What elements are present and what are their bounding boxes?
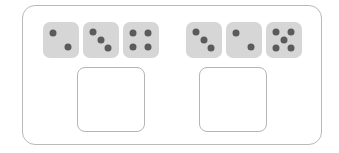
pip-icon bbox=[130, 44, 137, 51]
pip-icon bbox=[130, 29, 137, 36]
pip-icon bbox=[144, 29, 151, 36]
pip-icon bbox=[233, 29, 240, 36]
pip-icon bbox=[208, 45, 215, 52]
die-6 bbox=[266, 22, 302, 58]
pip-icon bbox=[89, 28, 96, 35]
worksheet bbox=[0, 0, 339, 153]
die-4 bbox=[186, 22, 222, 58]
pip-icon bbox=[50, 29, 57, 36]
die-1 bbox=[43, 22, 79, 58]
dice-row bbox=[23, 20, 321, 60]
die-5 bbox=[226, 22, 262, 58]
dice-group-2 bbox=[186, 22, 302, 58]
pip-icon bbox=[288, 29, 295, 36]
pip-icon bbox=[272, 29, 279, 36]
pip-icon bbox=[105, 45, 112, 52]
pip-icon bbox=[64, 44, 71, 51]
die-3 bbox=[123, 22, 159, 58]
pip-icon bbox=[200, 37, 207, 44]
pip-icon bbox=[272, 44, 279, 51]
pip-icon bbox=[144, 44, 151, 51]
worksheet-panel bbox=[22, 5, 322, 145]
answer-box-2[interactable] bbox=[199, 67, 267, 132]
answer-box-1[interactable] bbox=[77, 67, 145, 132]
pip-icon bbox=[288, 44, 295, 51]
pip-icon bbox=[247, 44, 254, 51]
answer-row bbox=[23, 67, 321, 135]
pip-icon bbox=[192, 28, 199, 35]
pip-icon bbox=[280, 37, 287, 44]
dice-group-1 bbox=[43, 22, 159, 58]
pip-icon bbox=[97, 37, 104, 44]
die-2 bbox=[83, 22, 119, 58]
